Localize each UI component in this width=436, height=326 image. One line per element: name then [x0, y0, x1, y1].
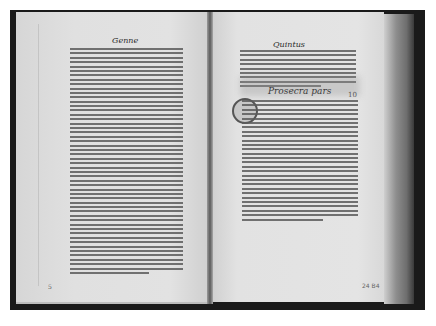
text-line — [70, 246, 183, 248]
text-line — [70, 206, 183, 208]
text-line — [242, 100, 358, 102]
text-line — [242, 192, 358, 194]
text-line — [70, 114, 183, 116]
text-line — [70, 254, 183, 256]
text-line — [70, 202, 183, 204]
text-line — [242, 201, 358, 203]
text-line — [70, 167, 183, 169]
text-line — [240, 59, 356, 61]
text-line — [70, 171, 183, 173]
text-line — [70, 224, 183, 226]
text-line — [70, 101, 183, 103]
text-line — [70, 210, 183, 212]
text-line — [70, 140, 183, 142]
signature-mark: 5 — [48, 283, 52, 290]
text-line — [242, 179, 358, 181]
right-text-block — [242, 100, 358, 223]
text-line — [70, 83, 183, 85]
text-line — [70, 127, 183, 129]
text-line — [242, 153, 358, 155]
text-line — [70, 232, 183, 234]
text-line — [242, 122, 358, 124]
text-line — [242, 166, 358, 168]
right-running-head: Quintus — [273, 40, 305, 49]
left-text-block — [70, 48, 183, 276]
text-line — [70, 149, 183, 151]
text-line — [70, 237, 183, 239]
text-line — [70, 57, 183, 59]
text-line — [70, 219, 183, 221]
text-line — [70, 48, 183, 50]
text-line — [242, 205, 358, 207]
text-line — [70, 241, 183, 243]
text-line — [70, 228, 183, 230]
text-line — [242, 144, 358, 146]
text-line — [70, 96, 183, 98]
text-line — [70, 79, 183, 81]
left-running-head: Genne — [112, 36, 138, 45]
text-line — [70, 66, 183, 68]
text-line — [70, 193, 183, 195]
text-line — [242, 113, 358, 115]
text-line — [242, 135, 358, 137]
text-line — [70, 136, 183, 138]
text-line — [70, 189, 183, 191]
text-line — [70, 259, 183, 261]
text-line — [70, 92, 183, 94]
text-line — [70, 61, 183, 63]
text-line — [70, 263, 183, 265]
text-line — [70, 123, 183, 125]
text-line — [70, 105, 183, 107]
text-line — [242, 109, 358, 111]
text-line — [70, 175, 183, 177]
text-line — [242, 175, 358, 177]
text-line — [70, 118, 183, 120]
text-line — [70, 268, 183, 270]
text-line — [70, 74, 183, 76]
text-line — [240, 72, 356, 74]
text-line — [240, 50, 356, 52]
text-line — [242, 126, 358, 128]
text-line — [242, 214, 358, 216]
pencil-annotation: 24 B4 — [362, 282, 379, 289]
section-heading: Prosecra pars — [268, 86, 331, 96]
text-line — [70, 70, 183, 72]
text-line — [70, 88, 183, 90]
text-line — [242, 210, 358, 212]
text-line — [242, 104, 358, 106]
text-line — [70, 180, 183, 182]
left-margin-rule — [38, 24, 39, 286]
text-line — [70, 272, 149, 274]
book-gutter — [207, 12, 213, 304]
text-line — [242, 157, 358, 159]
text-line — [242, 131, 358, 133]
text-line — [70, 109, 183, 111]
text-line — [242, 219, 323, 221]
text-line — [240, 68, 356, 70]
text-line — [242, 118, 358, 120]
text-line — [70, 197, 183, 199]
text-line — [240, 63, 356, 65]
text-line — [70, 158, 183, 160]
text-line — [70, 52, 183, 54]
text-line — [70, 215, 183, 217]
text-line — [70, 131, 183, 133]
text-line — [70, 162, 183, 164]
text-line — [242, 170, 358, 172]
folio-number: 10 — [348, 91, 357, 99]
text-line — [70, 153, 183, 155]
text-line — [70, 250, 183, 252]
text-line — [70, 145, 183, 147]
book-fore-edge — [384, 14, 414, 304]
text-line — [242, 188, 358, 190]
text-line — [242, 183, 358, 185]
text-line — [242, 161, 358, 163]
text-line — [70, 184, 183, 186]
text-line — [242, 197, 358, 199]
text-line — [242, 140, 358, 142]
text-line — [242, 148, 358, 150]
text-line — [240, 54, 356, 56]
